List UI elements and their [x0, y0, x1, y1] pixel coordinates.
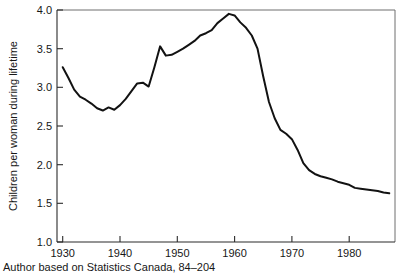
y-tick-label-2-0: 2.0: [37, 159, 52, 171]
line-chart: 4.0 3.5 3.0 2.5 2.0 1.5 1.0 1930 1940 19…: [0, 0, 410, 275]
x-tick-label-1970: 1970: [280, 247, 304, 259]
x-tick-label-1950: 1950: [165, 247, 189, 259]
x-tick-label-1930: 1930: [50, 247, 74, 259]
y-axis-title: Children per woman during lifetime: [7, 41, 19, 211]
y-tick-label-4-0: 4.0: [37, 4, 52, 16]
source-caption: Author based on Statistics Canada, 84–20…: [3, 261, 215, 273]
x-tick-label-1940: 1940: [108, 247, 132, 259]
data-series-line: [63, 14, 390, 193]
y-tick-label-3-5: 3.5: [37, 43, 52, 55]
x-axis-ticks: [63, 236, 350, 242]
y-tick-label-1-5: 1.5: [37, 197, 52, 209]
y-tick-label-2-5: 2.5: [37, 120, 52, 132]
fertility-rate-figure: 4.0 3.5 3.0 2.5 2.0 1.5 1.0 1930 1940 19…: [0, 0, 410, 275]
y-tick-label-3-0: 3.0: [37, 81, 52, 93]
y-axis-ticks: [57, 10, 63, 242]
x-tick-label-1980: 1980: [337, 247, 361, 259]
x-tick-label-1960: 1960: [222, 247, 246, 259]
